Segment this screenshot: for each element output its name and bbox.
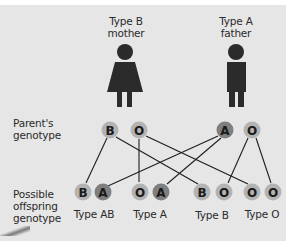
svg-text:O: O <box>134 124 144 138</box>
svg-text:A: A <box>98 186 108 200</box>
offspring-type-b-label: Type B <box>186 209 238 221</box>
inheritance-diagram: B O A O B A O A B O O O <box>0 0 291 241</box>
svg-text:O: O <box>247 124 257 138</box>
svg-text:O: O <box>135 186 145 200</box>
offspring-ab-allele-a: A <box>95 184 112 201</box>
mother-allele-o: O <box>131 122 148 139</box>
svg-text:B: B <box>105 124 114 138</box>
offspring-b-allele-o: O <box>216 184 233 201</box>
svg-text:O: O <box>268 186 278 200</box>
offspring-o-allele-o2: O <box>265 184 282 201</box>
offspring-b-allele-b: B <box>194 184 211 201</box>
svg-text:B: B <box>78 186 87 200</box>
svg-text:O: O <box>247 186 257 200</box>
offspring-type-ab-label: Type AB <box>68 208 120 220</box>
offspring-o-allele-o1: O <box>244 184 261 201</box>
inheritance-lines <box>86 136 271 186</box>
male-figure-icon <box>227 44 246 107</box>
mother-allele-b: B <box>102 122 119 139</box>
corner-decoration <box>0 226 30 236</box>
svg-text:A: A <box>220 124 230 138</box>
offspring-a-allele-a: A <box>153 184 170 201</box>
father-allele-o: O <box>244 122 261 139</box>
offspring-ab-allele-b: B <box>75 184 92 201</box>
svg-text:A: A <box>156 186 166 200</box>
female-figure-icon <box>107 44 143 107</box>
offspring-type-o-label: Type O <box>236 208 288 220</box>
offspring-type-a-label: Type A <box>124 208 176 220</box>
father-allele-a: A <box>217 122 234 139</box>
svg-text:O: O <box>219 186 229 200</box>
offspring-a-allele-o: O <box>132 184 149 201</box>
svg-text:B: B <box>197 186 206 200</box>
